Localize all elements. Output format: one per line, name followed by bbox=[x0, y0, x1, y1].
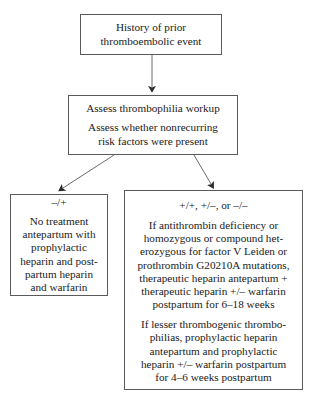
node-negative-body: No treatment antepartum with prophylacti… bbox=[20, 215, 98, 294]
edge-assess-to-positive bbox=[194, 155, 211, 184]
node-assess-line-2: Assess whether nonrecurring risk factors… bbox=[88, 121, 218, 147]
node-positive-result-treatment: +/+, +/–, or –/– If antithrombin deficie… bbox=[124, 190, 303, 390]
node-positive-body-lesser: If lesser thrombogenic thrombo- philias,… bbox=[141, 318, 286, 384]
node-assess-line-1: Assess thrombophilia workup bbox=[86, 102, 220, 115]
node-negative-result-treatment: –/+ No treatment antepartum with prophyl… bbox=[10, 194, 108, 296]
node-assess-thrombophilia-workup: Assess thrombophilia workup Assess wheth… bbox=[68, 95, 238, 155]
node-positive-genotype-label: +/+, +/–, or –/– bbox=[179, 199, 247, 212]
node-positive-body-severe: If antithrombin deficiency or homozygous… bbox=[138, 219, 290, 312]
node-history-of-prior-thromboembolic-event: History of prior thromboembolic event bbox=[80, 14, 222, 55]
flowchart-canvas: History of prior thromboembolic event As… bbox=[0, 0, 319, 402]
node-negative-genotype-label: –/+ bbox=[51, 196, 66, 209]
edge-assess-to-negative bbox=[63, 155, 114, 188]
node-history-label: History of prior thromboembolic event bbox=[101, 21, 202, 47]
